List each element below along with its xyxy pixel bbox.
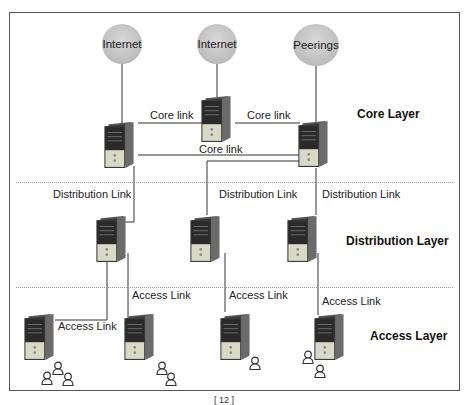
access-link-3-label: Access Link: [229, 289, 288, 301]
core-distribution-divider: [16, 182, 453, 183]
core-link-right-label: Core link: [247, 109, 290, 121]
access-link-1-label: Access Link: [58, 320, 117, 332]
internet-cloud-1: Internet: [102, 24, 142, 64]
distribution-link-mid-label: Distribution Link: [219, 188, 297, 200]
distribution-layer-label: Distribution Layer: [346, 234, 449, 248]
figure-caption: [ 12 ]: [214, 395, 234, 405]
access-layer-label: Access Layer: [370, 329, 447, 343]
access-link-4-label: Access Link: [322, 295, 381, 307]
core-link-left-label: Core link: [150, 109, 193, 121]
internet-cloud-2: Internet: [197, 24, 237, 64]
core-layer-label: Core Layer: [357, 107, 420, 121]
access-link-2-label: Access Link: [132, 289, 191, 301]
distribution-link-right-label: Distribution Link: [322, 188, 400, 200]
core-link-bottom-label: Core link: [199, 143, 242, 155]
peerings-cloud: Peerings: [293, 24, 339, 66]
distribution-link-left-label: Distribution Link: [53, 188, 131, 200]
distribution-access-divider: [16, 287, 453, 288]
